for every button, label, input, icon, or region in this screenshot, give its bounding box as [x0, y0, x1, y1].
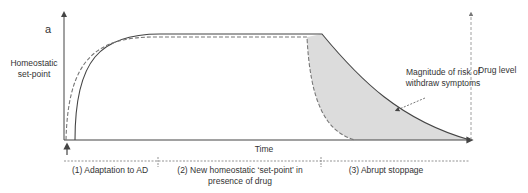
phase-3-label: (3) Abrupt stoppage — [349, 165, 424, 175]
phase-2-label-line2: presence of drug — [208, 176, 272, 186]
left-axis-label-line2: set-point — [18, 69, 51, 79]
left-axis-label-line1: Homeostatic — [10, 58, 58, 68]
phase-2-label-line1: (2) New homeostatic ‘set-point’ in — [177, 165, 303, 175]
right-axis-label: Drug level — [478, 65, 516, 75]
diagram: a Homeostatic set-point Drug level Time … — [0, 0, 528, 193]
x-axis-label: Time — [255, 144, 274, 154]
annotation-line1: Magnitude of risk of — [406, 67, 481, 77]
annotation-line2: withdraw symptoms — [405, 78, 481, 88]
annotation-pointer — [397, 98, 425, 110]
panel-label: a — [45, 23, 52, 35]
phase-1-label: (1) Adaptation to AD — [72, 165, 148, 175]
